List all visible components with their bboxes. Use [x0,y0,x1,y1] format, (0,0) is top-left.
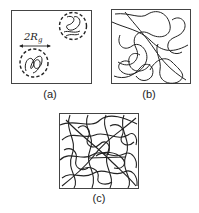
isolated-coil-1 [20,49,48,77]
radius-of-gyration-annotation: 2Rg [19,31,51,48]
isolated-coil-2 [60,13,87,40]
polymer-diagram: 2Rg [0,0,199,213]
entangled-coils [60,115,137,188]
semidilute-coils [112,12,188,84]
rg-label: 2Rg [23,31,43,44]
